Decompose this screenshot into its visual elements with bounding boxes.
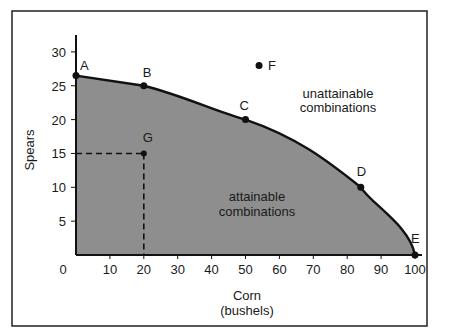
point-e xyxy=(412,252,419,259)
y-tick-label: 10 xyxy=(52,180,66,195)
point-label-a: A xyxy=(80,58,89,73)
point-g xyxy=(141,150,147,156)
x-axis-subtitle: (bushels) xyxy=(220,303,273,318)
point-a xyxy=(73,72,80,79)
point-b xyxy=(140,82,147,89)
attainable-label: attainable xyxy=(229,189,285,204)
point-label-d: D xyxy=(357,164,366,179)
x-axis-title: Corn xyxy=(233,288,261,303)
y-tick-label: 25 xyxy=(52,79,66,94)
origin-label: 0 xyxy=(59,262,66,277)
point-d xyxy=(357,184,364,191)
x-tick-label: 60 xyxy=(272,262,286,277)
x-tick-label: 50 xyxy=(238,262,252,277)
unattainable-label: combinations xyxy=(300,100,377,115)
y-axis-title: Spears xyxy=(22,129,37,171)
x-tick-label: 10 xyxy=(103,262,117,277)
point-c xyxy=(242,116,249,123)
point-label-e: E xyxy=(411,231,420,246)
ppf-chart: 510152025300102030405060708090100ABCDEFG… xyxy=(0,0,452,336)
point-f xyxy=(256,62,263,69)
x-tick-label: 100 xyxy=(404,262,426,277)
point-label-c: C xyxy=(240,98,249,113)
y-tick-label: 5 xyxy=(59,214,66,229)
point-label-b: B xyxy=(143,65,152,80)
y-tick-label: 20 xyxy=(52,113,66,128)
point-label-g: G xyxy=(143,130,153,145)
point-label-f: F xyxy=(268,58,276,73)
x-tick-label: 70 xyxy=(306,262,320,277)
x-tick-label: 30 xyxy=(170,262,184,277)
x-tick-label: 80 xyxy=(340,262,354,277)
x-tick-label: 40 xyxy=(204,262,218,277)
unattainable-label: unattainable xyxy=(303,86,374,101)
x-tick-label: 90 xyxy=(374,262,388,277)
y-tick-label: 15 xyxy=(52,146,66,161)
y-tick-label: 30 xyxy=(52,45,66,60)
x-tick-label: 20 xyxy=(137,262,151,277)
attainable-label: combinations xyxy=(219,204,296,219)
